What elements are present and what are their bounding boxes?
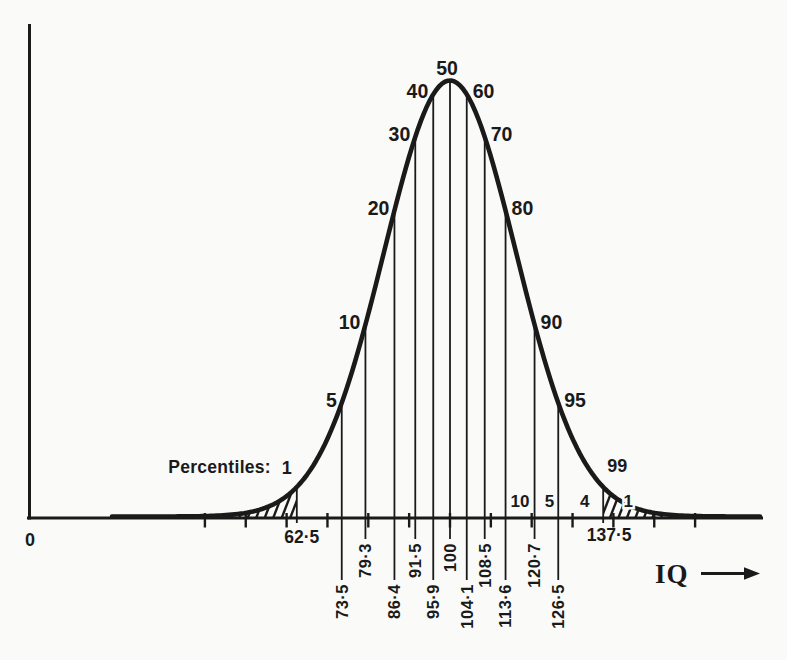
percentile-label: 20 [368, 197, 390, 219]
iq-value-label: 108·5 [476, 543, 494, 588]
x-axis-title: IQ [655, 559, 689, 589]
normal-curve [112, 81, 760, 517]
percentile-label: 5 [326, 389, 337, 411]
iq-value-label: 91·5 [406, 543, 424, 578]
iq-value-label: 120·7 [525, 543, 543, 588]
tail-area-label: 5 [545, 492, 554, 511]
hatch-stroke [264, 472, 283, 521]
iq-distribution-figure: 62·5173·5579·31086·42091·53095·940100501… [0, 0, 787, 660]
iq-value-label: 104·1 [458, 584, 476, 629]
tail-area-label: 10 [511, 492, 530, 511]
percentile-label: 10 [339, 311, 361, 333]
iq-value-label: 100 [441, 543, 459, 572]
hatch-stroke [694, 472, 713, 521]
hatch-stroke [255, 472, 274, 521]
x-axis-arrow-icon [701, 567, 760, 580]
percentile-label: 70 [491, 123, 513, 145]
hatch-stroke [179, 472, 198, 521]
percentiles-caption: Percentiles: [168, 457, 271, 477]
iq-value-label: 137·5 [587, 525, 632, 545]
iq-value-label: 62·5 [284, 527, 319, 547]
percentile-label: 80 [512, 197, 534, 219]
percentile-label: 30 [389, 123, 411, 145]
iq-value-label: 113·6 [496, 584, 514, 628]
percentile-label: 50 [436, 57, 458, 79]
tail-area-label: 1 [623, 492, 632, 511]
iq-distribution-chart: 62·5173·5579·31086·42091·53095·940100501… [0, 0, 787, 660]
percentile-label: 40 [407, 80, 429, 102]
hatch-stroke [187, 472, 206, 521]
percentile-label: 60 [473, 80, 495, 102]
hatch-stroke [702, 472, 721, 521]
percentile-label: 95 [564, 389, 586, 411]
iq-value-label: 86·4 [385, 584, 403, 619]
iq-value-label: 73·5 [333, 584, 351, 619]
percentile-label: 99 [607, 456, 627, 476]
x-axis-origin-label: 0 [25, 530, 35, 550]
tail-area-label: 4 [580, 492, 590, 511]
hatch-stroke [711, 472, 730, 521]
iq-value-label: 95·9 [424, 584, 442, 619]
hatch-stroke [298, 472, 317, 521]
percentile-label: 90 [541, 311, 563, 333]
percentile-label: 1 [282, 458, 292, 478]
hatch-stroke [170, 472, 189, 521]
iq-value-label: 126·5 [549, 584, 567, 629]
iq-value-label: 79·3 [356, 543, 374, 578]
